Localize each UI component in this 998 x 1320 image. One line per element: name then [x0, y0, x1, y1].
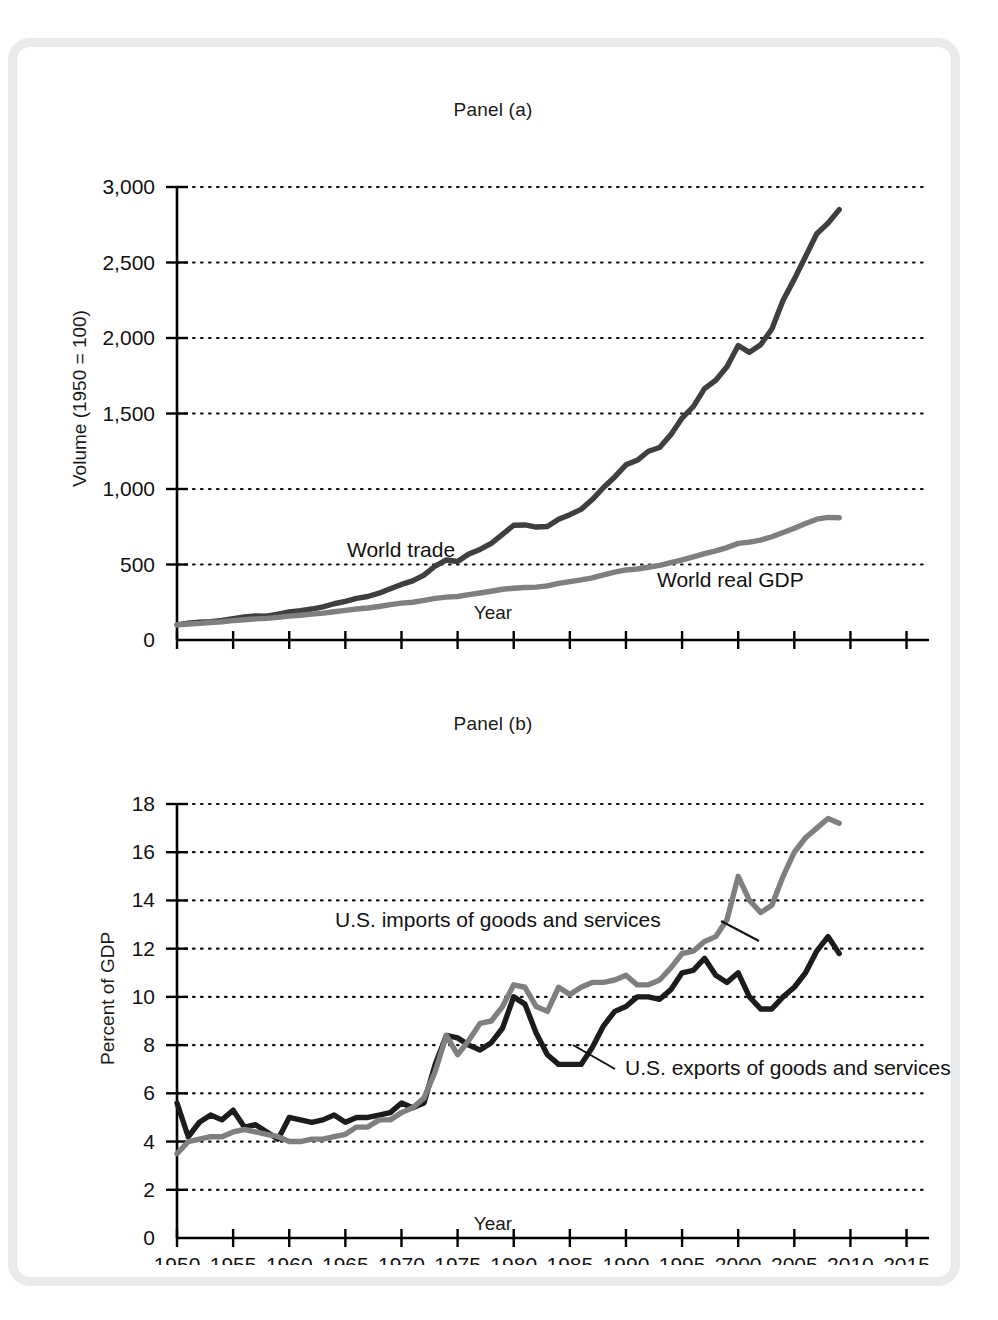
x-tick-label: 1980	[490, 1253, 537, 1265]
series-label-us-imports: U.S. imports of goods and services	[335, 908, 661, 931]
y-tick-label: 2,500	[102, 251, 155, 274]
y-tick-label: 0	[143, 1226, 155, 1249]
series-label-world-real-gdp: World real GDP	[657, 568, 804, 591]
panel-a-plot-area: 05001,0001,5002,0002,5003,00019501955196…	[17, 57, 969, 653]
x-tick-label: 2005	[771, 1253, 818, 1265]
y-tick-label: 18	[132, 792, 155, 815]
series-line	[177, 937, 839, 1140]
x-tick-label: 1960	[266, 1253, 313, 1265]
x-tick-label: 1990	[603, 1253, 650, 1265]
y-tick-label: 500	[120, 553, 155, 576]
x-tick-label: 2015	[883, 1253, 930, 1265]
x-tick-label: 1965	[322, 1253, 369, 1265]
x-tick-label: 2010	[827, 1253, 874, 1265]
y-tick-label: 2	[143, 1178, 155, 1201]
panel-b-plot-area: 0246810121416181950195519601965197019751…	[17, 665, 969, 1265]
panel-a-svg: 05001,0001,5002,0002,5003,00019501955196…	[17, 57, 969, 653]
y-tick-label: 16	[132, 840, 155, 863]
y-tick-label: 4	[143, 1130, 155, 1153]
y-tick-label: 2,000	[102, 326, 155, 349]
panel-b-svg: 0246810121416181950195519601965197019751…	[17, 665, 969, 1265]
series-label-us-exports: U.S. exports of goods and services	[625, 1056, 951, 1079]
leader-line-imports	[721, 921, 759, 941]
y-tick-label: 0	[143, 628, 155, 651]
y-tick-label: 1,000	[102, 477, 155, 500]
y-tick-label: 14	[132, 888, 156, 911]
y-tick-label: 6	[143, 1081, 155, 1104]
y-tick-label: 10	[132, 985, 155, 1008]
y-tick-label: 1,500	[102, 402, 155, 425]
series-label-world-trade: World trade	[347, 538, 455, 561]
panel-a: Panel (a) Volume (1950 = 100) Year 05001…	[17, 57, 969, 653]
x-tick-label: 1995	[659, 1253, 706, 1265]
y-tick-label: 12	[132, 937, 155, 960]
figure-frame: Panel (a) Volume (1950 = 100) Year 05001…	[8, 38, 960, 1286]
x-tick-label: 2000	[715, 1253, 762, 1265]
y-tick-label: 3,000	[102, 175, 155, 198]
x-tick-label: 1950	[154, 1253, 201, 1265]
series-line	[177, 210, 839, 625]
x-tick-label: 1970	[378, 1253, 425, 1265]
x-tick-label: 1975	[434, 1253, 481, 1265]
panel-b: Panel (b) Percent of GDP Year 0246810121…	[17, 665, 969, 1265]
x-tick-label: 1985	[546, 1253, 593, 1265]
x-tick-label: 1955	[210, 1253, 257, 1265]
y-tick-label: 8	[143, 1033, 155, 1056]
series-line	[177, 818, 839, 1153]
